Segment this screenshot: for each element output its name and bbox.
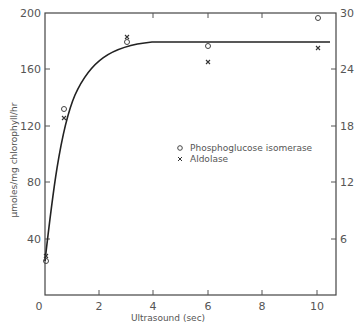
legend-circle-icon [178,146,183,151]
legend-aldolase-label: Aldolase [190,154,229,164]
chart: 0 2 4 6 8 10 40 80 120 160 200 6 12 18 2… [0,0,357,324]
y-tick-160: 160 [20,63,41,76]
legend-pgi-label: Phosphoglucose isomerase [190,143,313,153]
y2-tick-18: 18 [340,120,354,133]
y2-tick-6: 6 [340,233,347,246]
y-tick-40: 40 [27,233,41,246]
x-tick-8: 8 [259,300,266,313]
x-axis-label: Ultrasound (sec) [131,313,205,323]
x-tick-2: 2 [96,300,103,313]
legend-cross-icon [178,157,182,161]
x-tick-10: 10 [310,300,324,313]
y-tick-80: 80 [27,176,41,189]
x-tick-0: 0 [36,300,43,313]
x-tick-6: 6 [205,300,212,313]
y-axis-label: μmoles/mg chlorophyll/hr [9,102,19,217]
y2-tick-12: 12 [340,176,354,189]
y-tick-200: 200 [20,7,41,20]
y2-tick-24: 24 [340,63,354,76]
y2-tick-30: 30 [340,7,354,20]
series-pgi [44,16,321,264]
x-tick-4: 4 [150,300,157,313]
legend: Phosphoglucose isomerase Aldolase [178,143,313,164]
y-tick-120: 120 [20,120,41,133]
